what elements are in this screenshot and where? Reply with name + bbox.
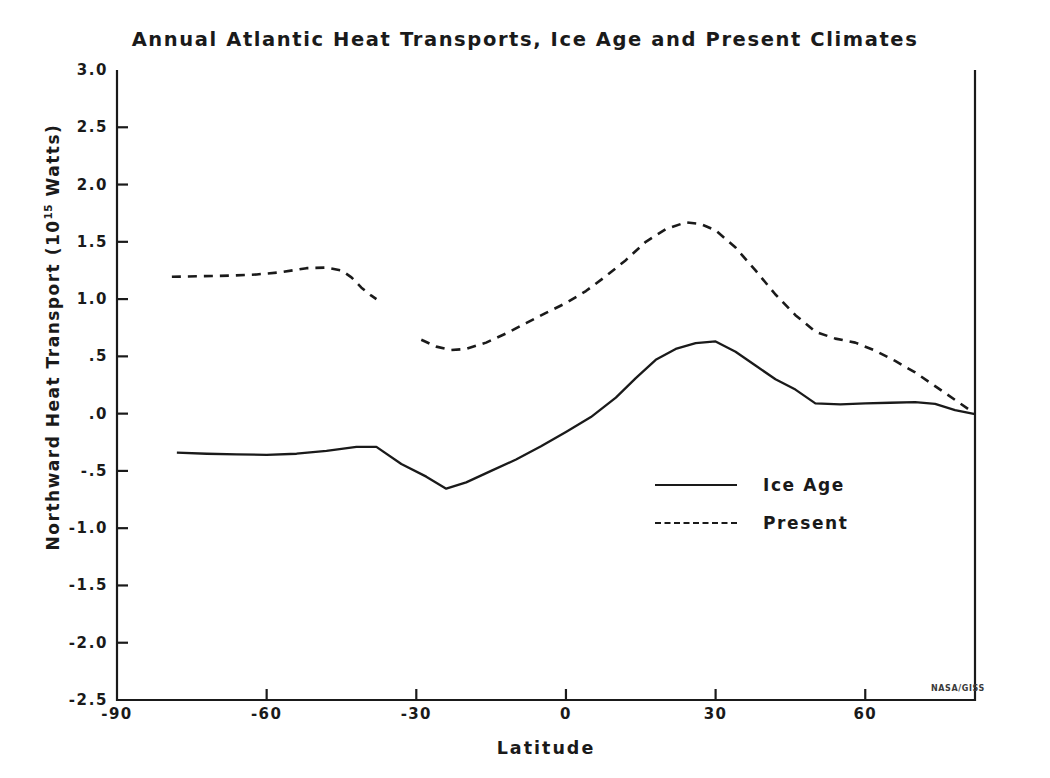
legend-swatch-solid-line-icon	[655, 478, 737, 492]
chart-legend: Ice Age Present	[655, 466, 905, 542]
x-axis-tick-label: 0	[521, 705, 611, 723]
y-axis-tick-label: 1.0	[0, 290, 108, 308]
y-axis-tick-label: -2.0	[0, 634, 108, 652]
x-axis-tick-label: -60	[222, 705, 312, 723]
series-line-present	[421, 222, 975, 413]
y-axis-tick-label: -1.5	[0, 576, 108, 594]
x-axis-tick-marks	[267, 689, 866, 700]
x-axis-title: Latitude	[117, 738, 975, 758]
x-axis-tick-label: -90	[72, 705, 162, 723]
series-line-present	[172, 268, 377, 300]
credit-watermark: NASA/GISS	[931, 684, 985, 693]
y-axis-tick-label: .5	[0, 347, 108, 365]
y-axis-tick-labels: 3.02.52.01.51.0.5.0-.5-1.0-1.5-2.0-2.5	[0, 0, 108, 778]
page-title: Annual Atlantic Heat Transports, Ice Age…	[0, 28, 1050, 51]
axes-frame	[117, 70, 975, 700]
data-series-layer	[172, 222, 975, 488]
y-axis-tick-label: -1.0	[0, 519, 108, 537]
x-axis-tick-label: 30	[671, 705, 761, 723]
legend-swatch-dashed-line-icon	[655, 516, 737, 530]
legend-label-present: Present	[763, 513, 848, 533]
legend-item-ice-age: Ice Age	[655, 466, 905, 504]
legend-item-present: Present	[655, 504, 905, 542]
y-axis-tick-label: 3.0	[0, 61, 108, 79]
chart-figure: Annual Atlantic Heat Transports, Ice Age…	[0, 0, 1050, 778]
y-axis-tick-label: 2.5	[0, 118, 108, 136]
plot-area	[0, 0, 1050, 778]
y-axis-tick-label: -.5	[0, 462, 108, 480]
x-axis-tick-label: -30	[371, 705, 461, 723]
y-axis-tick-label: 2.0	[0, 176, 108, 194]
y-axis-tick-label: 1.5	[0, 233, 108, 251]
x-axis-tick-label: 60	[820, 705, 910, 723]
legend-label-ice-age: Ice Age	[763, 475, 845, 495]
y-axis-tick-marks	[117, 127, 128, 642]
y-axis-tick-label: .0	[0, 405, 108, 423]
